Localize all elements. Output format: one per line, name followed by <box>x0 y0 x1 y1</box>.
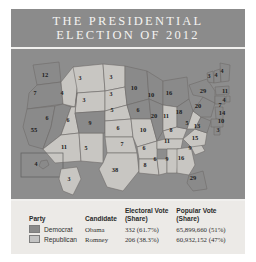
democrat-swatch <box>29 225 40 233</box>
vote-label-UT: 6 <box>67 117 70 123</box>
vote-label-IN: 11 <box>163 112 169 119</box>
vote-label-RI: 4 <box>223 97 226 103</box>
vote-label-ND: 3 <box>110 74 113 80</box>
vote-label-NY: 29 <box>200 87 207 94</box>
vote-label-CA: 55 <box>31 126 38 133</box>
election-map-card: THE PRESIDENTIAL ELECTION OF 2012 <box>11 9 245 254</box>
vote-label-OR: 7 <box>34 90 37 96</box>
vote-label-NJ: 14 <box>219 109 226 116</box>
state-OR[interactable] <box>27 82 63 109</box>
vote-label-OH: 18 <box>176 108 183 115</box>
vote-label-KS: 6 <box>117 125 120 131</box>
results-legend: Party Candidate Electoral Vote (Share) P… <box>11 201 245 254</box>
vote-label-SC: 9 <box>189 145 192 151</box>
results-table: Party Candidate Electoral Vote (Share) P… <box>29 207 234 244</box>
vote-label-AR: 6 <box>143 145 146 151</box>
republican-swatch <box>29 235 40 243</box>
popular-cell-democrat: 65,899,660 (51%) <box>176 224 233 234</box>
vote-label-MO: 10 <box>140 126 147 133</box>
vote-label-OK: 7 <box>121 141 124 147</box>
vote-label-AL: 9 <box>166 156 169 162</box>
table-row: Republican Romney 206 (38.3%) 60,932,152… <box>29 234 234 244</box>
state-ND[interactable] <box>103 64 125 91</box>
table-row: Democrat Obama 332 (61.7%) 65,899,660 (5… <box>29 224 234 234</box>
vote-label-SD: 3 <box>110 91 113 97</box>
vote-label-IL: 20 <box>151 112 158 119</box>
vote-label-VA: 13 <box>194 122 201 129</box>
party-cell-republican: Republican <box>29 234 85 244</box>
vote-label-AZ: 11 <box>61 143 67 150</box>
vote-label-MT: 3 <box>79 75 82 81</box>
vote-label-CT: 7 <box>219 102 222 108</box>
table-header-row: Party Candidate Electoral Vote (Share) P… <box>29 207 234 224</box>
vote-label-FL: 29 <box>190 174 197 181</box>
vote-label-NH: 4 <box>215 72 218 78</box>
electoral-cell-democrat: 332 (61.7%) <box>125 224 176 234</box>
page-title-line2: ELECTION OF 2012 <box>11 28 245 42</box>
popular-cell-republican: 60,932,152 (47%) <box>176 234 233 244</box>
vote-label-WA: 12 <box>42 71 49 78</box>
state-RI[interactable] <box>226 96 230 102</box>
vote-label-CO: 9 <box>89 120 92 126</box>
vote-label-MD: 10 <box>218 117 225 124</box>
col-candidate: Candidate <box>85 207 125 224</box>
map-svg: 1275564336115933567381061068102061611811… <box>11 49 245 199</box>
party-cell-democrat: Democrat <box>29 224 85 234</box>
vote-label-WI: 10 <box>148 91 155 98</box>
candidate-cell-romney: Romney <box>85 234 125 244</box>
vote-label-HI: 4 <box>35 161 38 167</box>
page-title-line1: THE PRESIDENTIAL <box>11 14 245 28</box>
vote-label-NM: 5 <box>85 145 88 151</box>
col-popular-vote: Popular Vote (Share) <box>176 207 233 224</box>
vote-label-TX: 38 <box>112 166 119 173</box>
vote-label-MN: 10 <box>131 84 138 91</box>
vote-label-MA: 11 <box>222 87 228 94</box>
vote-label-DE: 3 <box>217 127 220 133</box>
us-electoral-map[interactable]: 1275564336115933567381061068102061611811… <box>11 49 245 199</box>
vote-label-NC: 15 <box>192 134 199 141</box>
vote-label-PA: 20 <box>195 102 202 109</box>
vote-label-VT: 3 <box>208 73 211 79</box>
state-TX[interactable] <box>99 153 139 191</box>
vote-label-GA: 16 <box>178 154 185 161</box>
state-WY[interactable] <box>75 91 105 113</box>
vote-label-LA: 8 <box>144 162 147 168</box>
state-HI[interactable] <box>39 160 49 169</box>
vote-label-MS: 6 <box>154 156 157 162</box>
title-banner: THE PRESIDENTIAL ELECTION OF 2012 <box>11 9 245 47</box>
candidate-cell-obama: Obama <box>85 224 125 234</box>
vote-label-NV: 6 <box>46 115 49 121</box>
vote-label-IA: 6 <box>137 107 140 113</box>
vote-label-MI: 16 <box>166 89 173 96</box>
col-electoral-vote: Electoral Vote (Share) <box>125 207 176 224</box>
vote-label-WY: 3 <box>83 97 86 103</box>
vote-label-NE: 5 <box>111 107 114 113</box>
vote-label-WV: 5 <box>186 120 189 126</box>
vote-label-AK: 3 <box>68 176 71 182</box>
col-party: Party <box>29 207 85 224</box>
vote-label-TN: 11 <box>164 137 170 144</box>
state-NM[interactable] <box>79 133 103 163</box>
electoral-cell-republican: 206 (38.3%) <box>125 234 176 244</box>
vote-label-KY: 8 <box>170 127 173 133</box>
vote-label-ME: 4 <box>221 68 224 74</box>
vote-label-ID: 4 <box>61 90 64 96</box>
